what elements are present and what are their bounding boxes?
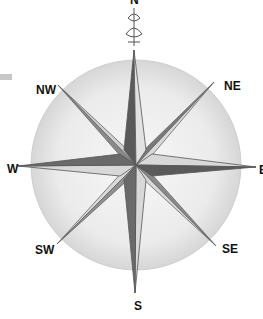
- label-northeast: NE: [224, 80, 241, 92]
- label-west: W: [7, 163, 18, 175]
- label-east: E: [259, 164, 263, 176]
- fleur-de-lis-icon: [126, 8, 142, 46]
- compass-rose-drawing: [0, 0, 263, 319]
- label-southwest: SW: [35, 244, 54, 256]
- label-south: S: [134, 300, 142, 312]
- compass-rose-image: N NE E SE S SW W NW: [0, 0, 263, 319]
- label-northwest: NW: [36, 84, 56, 96]
- label-north: N: [130, 0, 139, 6]
- label-southeast: SE: [222, 243, 238, 255]
